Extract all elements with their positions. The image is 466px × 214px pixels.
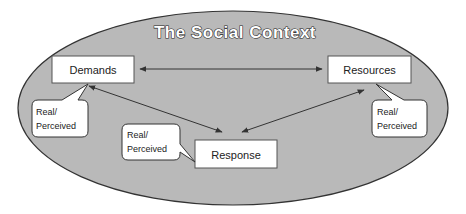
- callout-resources-line1: Real/: [377, 107, 399, 117]
- diagram-title: The Social Context: [154, 23, 316, 42]
- node-demands: Demands: [52, 56, 134, 83]
- node-response-label: Response: [211, 149, 261, 161]
- node-resources: Resources: [328, 56, 411, 83]
- callout-demands-line1: Real/: [36, 107, 58, 117]
- social-context-diagram: The Social Context Demands Resources Res…: [0, 0, 466, 214]
- callout-demands-line2: Perceived: [36, 121, 76, 131]
- callout-response-line1: Real/: [127, 130, 149, 140]
- node-resources-label: Resources: [343, 64, 396, 76]
- node-response: Response: [195, 140, 277, 168]
- node-demands-label: Demands: [69, 64, 117, 76]
- callout-resources-line2: Perceived: [377, 121, 417, 131]
- callout-response-line2: Perceived: [127, 144, 167, 154]
